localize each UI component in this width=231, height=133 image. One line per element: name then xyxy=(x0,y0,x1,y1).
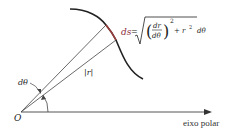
radius-label: |r| xyxy=(84,68,93,77)
origin-label: O xyxy=(14,113,22,123)
dtheta-tail: dθ xyxy=(197,27,206,35)
arc-length-formula: ds = ( dr dθ ) 2 + r 2 dθ xyxy=(121,17,206,44)
polar-axis-label: eixo polar xyxy=(183,118,219,128)
ray-lower xyxy=(21,40,116,112)
fraction-denominator: dθ xyxy=(152,32,161,40)
polar-arc-length-diagram: dθ |r| O eixo polar ds = ( dr dθ ) 2 + r… xyxy=(0,0,231,133)
exponent-2: 2 xyxy=(170,17,174,24)
fraction-numerator: dr xyxy=(153,22,161,30)
ray-upper xyxy=(21,25,106,112)
r-exponent: 2 xyxy=(189,24,192,30)
equals-sign: = xyxy=(131,27,138,36)
polar-curve xyxy=(70,9,143,79)
right-paren: ) xyxy=(163,22,169,41)
dtheta-label: dθ xyxy=(18,78,28,87)
arc-segment-ds xyxy=(106,25,116,40)
plus-r-term: + r xyxy=(174,27,186,35)
axis-arrow-icon xyxy=(204,109,212,115)
